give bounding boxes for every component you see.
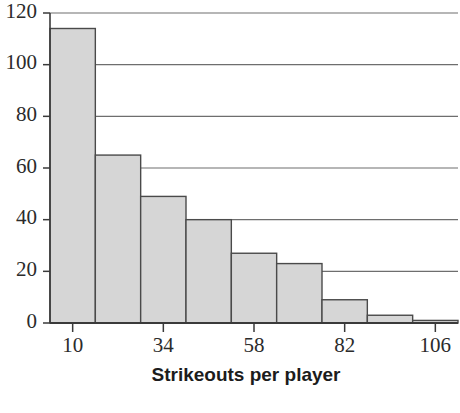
chart-canvas: 020406080100120 10345882106 Strikeouts p… <box>0 0 460 413</box>
histogram-bar <box>141 196 186 323</box>
x-axis-title: Strikeouts per player <box>151 364 341 385</box>
y-tick-label: 20 <box>16 257 37 281</box>
histogram-bar <box>277 264 322 323</box>
y-tick-label: 0 <box>27 309 38 333</box>
bars <box>50 29 458 324</box>
y-tick-label: 80 <box>16 102 37 126</box>
y-tick-label: 120 <box>6 0 38 23</box>
x-axis <box>50 323 458 332</box>
histogram-chart: 020406080100120 10345882106 Strikeouts p… <box>0 0 460 413</box>
histogram-bar <box>231 253 276 323</box>
y-axis <box>43 13 50 323</box>
y-tick-label: 60 <box>16 154 37 178</box>
histogram-bar <box>95 155 140 323</box>
histogram-bar <box>367 315 412 323</box>
y-tick-label: 100 <box>6 50 38 74</box>
histogram-bar <box>322 300 367 323</box>
x-tick-label: 106 <box>420 333 452 357</box>
x-tick-label: 58 <box>244 333 265 357</box>
histogram-bar <box>50 29 95 324</box>
x-tick-label: 34 <box>153 333 175 357</box>
y-tick-labels: 020406080100120 <box>6 0 38 333</box>
histogram-bar <box>186 220 231 323</box>
x-tick-label: 82 <box>334 333 355 357</box>
x-tick-label: 10 <box>62 333 83 357</box>
y-tick-label: 40 <box>16 205 37 229</box>
x-tick-labels: 10345882106 <box>62 333 451 357</box>
